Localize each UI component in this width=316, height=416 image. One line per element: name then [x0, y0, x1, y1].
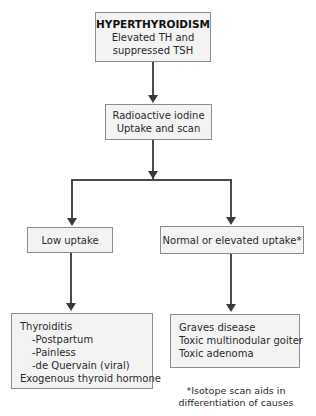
arrow-down-icon [148, 95, 158, 103]
cause-item: Thyroiditis [20, 320, 152, 333]
normal-uptake-node: Normal or elevated uptake* [160, 226, 304, 254]
node-line: Uptake and scan [117, 122, 201, 135]
cause-item: Toxic multinodular goiter [179, 334, 299, 347]
cause-item: Exogenous thyroid hormone [20, 372, 152, 385]
connector-line [230, 179, 232, 219]
arrow-down-icon [66, 303, 76, 311]
footnote: *Isotope scan aids in differentiation of… [168, 385, 304, 409]
cause-subitem: -Painless [20, 346, 152, 359]
node-title: HYPERTHYROIDISM [96, 18, 210, 31]
cause-item: Toxic adenoma [179, 347, 299, 360]
connector-line [230, 254, 232, 305]
cause-subitem: -Postpartum [20, 333, 152, 346]
hyperthyroidism-node: HYPERTHYROIDISM Elevated TH and suppress… [95, 12, 211, 62]
connector-line [70, 253, 72, 305]
cause-subitem: -de Quervain (viral) [20, 359, 152, 372]
connector-line [71, 179, 73, 219]
node-line: Radioactive iodine [112, 109, 204, 122]
radioactive-iodine-node: Radioactive iodine Uptake and scan [105, 104, 212, 140]
node-label: Normal or elevated uptake* [163, 234, 302, 247]
node-label: Low uptake [41, 234, 98, 247]
footnote-line: differentiation of causes [168, 397, 304, 409]
footnote-line: *Isotope scan aids in [168, 385, 304, 397]
node-line: suppressed TSH [113, 44, 193, 57]
node-line: Elevated TH and [112, 31, 195, 44]
cause-item: Graves disease [179, 321, 299, 334]
arrow-down-icon [226, 304, 236, 312]
arrow-down-icon [67, 218, 77, 226]
arrow-down-icon [226, 217, 236, 225]
connector-line [152, 62, 154, 96]
low-uptake-node: Low uptake [27, 227, 113, 253]
normal-uptake-causes-node: Graves disease Toxic multinodular goiter… [170, 314, 300, 368]
branch-line [71, 179, 231, 181]
low-uptake-causes-node: Thyroiditis -Postpartum -Painless -de Qu… [11, 313, 153, 389]
arrow-down-icon [148, 171, 158, 179]
